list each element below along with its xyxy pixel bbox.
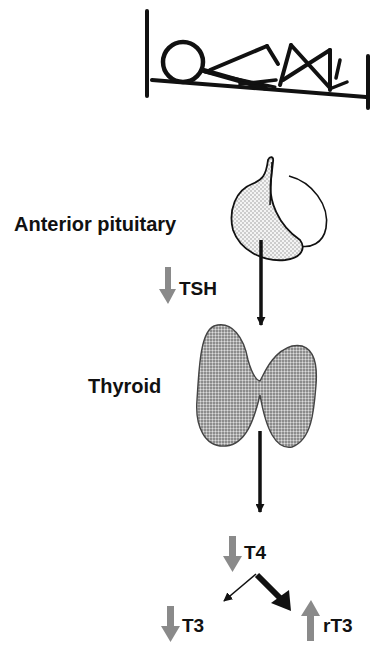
diagram-canvas bbox=[0, 0, 374, 651]
anterior-lobe bbox=[232, 157, 303, 260]
hormone-label-t4: T4 bbox=[244, 543, 266, 562]
hormone-label-tsh: TSH bbox=[179, 279, 217, 298]
tsh-decrease-arrow-icon bbox=[159, 267, 176, 304]
arrow-t4-to-rt3 bbox=[257, 575, 291, 611]
organ-label-thyroid: Thyroid bbox=[88, 376, 161, 396]
pituitary-gland-icon bbox=[232, 157, 327, 260]
hormone-label-t3: T3 bbox=[182, 616, 204, 635]
patient-lying-in-bed-icon bbox=[147, 11, 368, 108]
t4-decrease-arrow-icon bbox=[223, 536, 242, 572]
arrow-t4-to-t3 bbox=[224, 574, 256, 601]
patient-head bbox=[163, 42, 203, 82]
t3-decrease-arrow-icon bbox=[161, 606, 180, 642]
thyroid-axis-diagram: Anterior pituitary Thyroid TSH T4 T3 rT3 bbox=[0, 0, 374, 651]
organ-label-anterior-pituitary: Anterior pituitary bbox=[14, 214, 176, 234]
hormone-label-rt3: rT3 bbox=[323, 616, 353, 635]
rt3-increase-arrow-icon bbox=[301, 600, 320, 641]
thyroid-gland-icon bbox=[197, 325, 317, 447]
